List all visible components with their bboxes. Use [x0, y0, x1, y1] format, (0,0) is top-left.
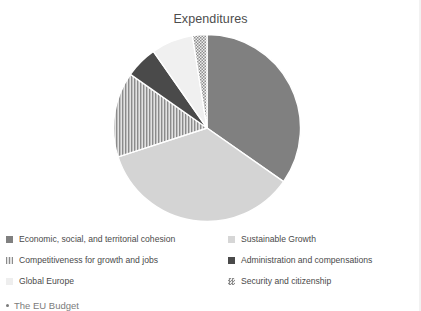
legend-swatch-icon-competitiveness: [6, 257, 13, 264]
pie-chart: [113, 34, 301, 222]
legend-label-competitiveness: Competitiveness for growth and jobs: [19, 255, 158, 266]
legend-label-cohesion: Economic, social, and territorial cohesi…: [19, 234, 175, 245]
expenditures-pie-figure: Expenditures Economic, social,: [0, 0, 421, 311]
legend-label-sustainable-growth: Sustainable Growth: [241, 234, 316, 245]
legend-item-sustainable-growth[interactable]: Sustainable Growth: [228, 229, 421, 250]
legend-label-security: Security and citizenship: [241, 276, 331, 287]
legend-swatch-icon-administration: [228, 257, 235, 264]
legend-label-administration: Administration and compensations: [241, 255, 372, 266]
pie-slice-group: [114, 35, 301, 222]
footer-bullet-line: The EU Budget: [6, 300, 206, 311]
legend-swatch-icon-cohesion: [6, 236, 13, 243]
legend-column-right: Sustainable Growth Administration and co…: [228, 229, 421, 292]
chart-legend: Economic, social, and territorial cohesi…: [0, 229, 421, 291]
legend-column-left: Economic, social, and territorial cohesi…: [6, 229, 220, 292]
legend-swatch-icon-global-europe: [6, 278, 13, 285]
legend-label-global-europe: Global Europe: [19, 276, 74, 287]
footer-bullet-text: The EU Budget: [14, 300, 79, 311]
legend-item-administration-and-compensations[interactable]: Administration and compensations: [228, 250, 421, 271]
legend-item-security-and-citizenship[interactable]: Security and citizenship: [228, 271, 421, 292]
legend-swatch-icon-security: [228, 278, 235, 285]
legend-item-competitiveness-for-growth-and-jobs[interactable]: Competitiveness for growth and jobs: [6, 250, 220, 271]
legend-item-global-europe[interactable]: Global Europe: [6, 271, 220, 292]
legend-swatch-icon-sustainable-growth: [228, 236, 235, 243]
bullet-point-icon: [6, 304, 9, 307]
chart-title: Expenditures: [0, 12, 421, 27]
pie-chart-svg: [113, 34, 301, 222]
legend-item-economic-social-territorial-cohesion[interactable]: Economic, social, and territorial cohesi…: [6, 229, 220, 250]
